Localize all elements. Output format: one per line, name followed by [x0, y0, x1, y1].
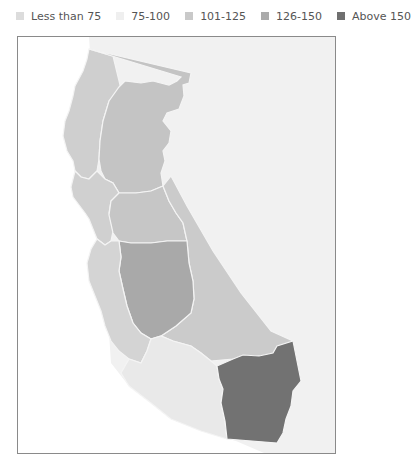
legend-swatch [261, 12, 269, 20]
legend-label: Less than 75 [31, 10, 101, 23]
map-frame [17, 36, 336, 454]
legend-item-101-125: 101-125 [185, 10, 246, 23]
legend-swatch [16, 12, 24, 20]
legend-swatch [185, 12, 193, 20]
legend-label: 101-125 [200, 10, 246, 23]
map-legend: Less than 75 75-100 101-125 126-150 Abov… [16, 8, 339, 24]
legend-label: 126-150 [276, 10, 322, 23]
legend-item-75-100: 75-100 [116, 10, 170, 23]
legend-swatch [116, 12, 124, 20]
legend-item-less-than-75: Less than 75 [16, 10, 101, 23]
legend-swatch [337, 12, 345, 20]
legend-item-126-150: 126-150 [261, 10, 322, 23]
legend-label: Above 150 [352, 10, 411, 23]
california-map [18, 37, 336, 454]
legend-label: 75-100 [131, 10, 170, 23]
legend-item-above-150: Above 150 [337, 10, 411, 23]
